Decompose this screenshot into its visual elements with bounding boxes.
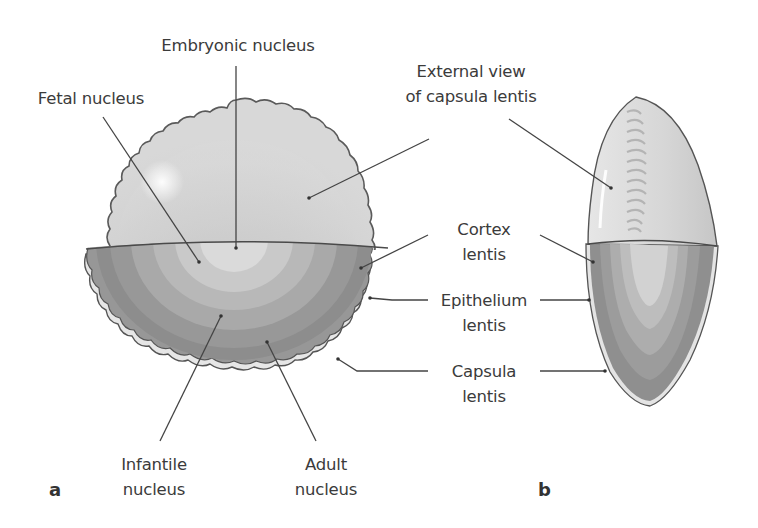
label-infantile-nucleus: Infantile nucleus bbox=[104, 452, 204, 502]
label-line: Fetal nucleus bbox=[26, 86, 156, 111]
label-adult-nucleus: Adult nucleus bbox=[276, 452, 376, 502]
figure-artwork bbox=[0, 0, 758, 528]
label-cortex-lentis: Cortex lentis bbox=[432, 217, 536, 267]
label-line: nucleus bbox=[104, 477, 204, 502]
label-line: Embryonic nucleus bbox=[150, 33, 326, 58]
label-line: of capsula lentis bbox=[392, 84, 550, 109]
panel-label-b: b bbox=[538, 479, 551, 500]
label-line: lentis bbox=[432, 242, 536, 267]
label-epithelium-lentis: Epithelium lentis bbox=[430, 288, 538, 338]
label-capsula-lentis: Capsula lentis bbox=[432, 359, 536, 409]
label-line: Infantile bbox=[104, 452, 204, 477]
label-line: Adult bbox=[276, 452, 376, 477]
lens-anatomy-figure: Embryonic nucleus Fetal nucleus External… bbox=[0, 0, 758, 528]
label-line: External view bbox=[392, 59, 550, 84]
label-line: Cortex bbox=[432, 217, 536, 242]
label-line: lentis bbox=[430, 313, 538, 338]
panel-label-a: a bbox=[49, 479, 61, 500]
label-fetal-nucleus: Fetal nucleus bbox=[26, 86, 156, 111]
label-external-view: External view of capsula lentis bbox=[392, 59, 550, 109]
label-line: nucleus bbox=[276, 477, 376, 502]
label-line: Capsula bbox=[432, 359, 536, 384]
label-embryonic-nucleus: Embryonic nucleus bbox=[150, 33, 326, 58]
label-line: Epithelium bbox=[430, 288, 538, 313]
label-line: lentis bbox=[432, 384, 536, 409]
lens-lateral-view bbox=[586, 97, 718, 406]
